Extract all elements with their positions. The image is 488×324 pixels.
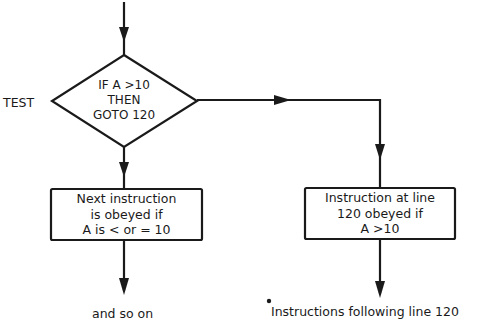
- yes-branch-line: [197, 100, 380, 188]
- arrowhead-down-icon: [375, 144, 385, 160]
- right-end-label: Instructions following line 120: [271, 304, 459, 319]
- left-end-label: and so on: [92, 306, 153, 321]
- right-box-text: Instruction at line 120 obeyed if A >10: [305, 190, 455, 237]
- decision-line-2: THEN: [74, 93, 174, 108]
- test-label: TEST: [3, 95, 34, 110]
- flowchart-diagram: [0, 0, 488, 324]
- right-box-line-3: A >10: [305, 221, 455, 237]
- decision-line-3: GOTO 120: [74, 108, 174, 123]
- decision-line-1: IF A >10: [74, 78, 174, 93]
- left-box-line-2: is obeyed if: [51, 207, 202, 223]
- right-box-line-1: Instruction at line: [305, 190, 455, 206]
- arrowhead-down-icon: [119, 27, 129, 42]
- decision-text: IF A >10 THEN GOTO 120: [74, 78, 174, 123]
- right-box-line-2: 120 obeyed if: [305, 206, 455, 222]
- bullet-dot-icon: [267, 299, 271, 303]
- arrowhead-down-icon: [375, 281, 385, 298]
- left-box-line-1: Next instruction: [51, 191, 202, 207]
- arrowhead-right-icon: [274, 95, 291, 105]
- left-box-text: Next instruction is obeyed if A is < or …: [51, 191, 202, 238]
- left-box-line-3: A is < or = 10: [51, 222, 202, 238]
- arrowhead-down-icon: [119, 162, 129, 177]
- arrowhead-down-icon: [119, 278, 129, 295]
